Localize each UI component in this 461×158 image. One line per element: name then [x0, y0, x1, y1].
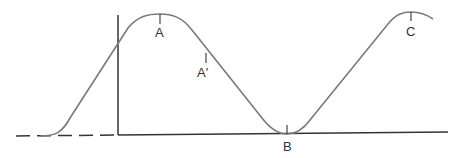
- label-C: C: [406, 24, 415, 39]
- label-A: A: [155, 25, 164, 40]
- label-B: B: [283, 139, 292, 154]
- dashed-baseline-extension: [16, 135, 118, 136]
- wave-curve: [40, 12, 433, 136]
- wave-diagram: A A′ B C: [0, 0, 461, 158]
- label-A-prime: A′: [197, 65, 209, 80]
